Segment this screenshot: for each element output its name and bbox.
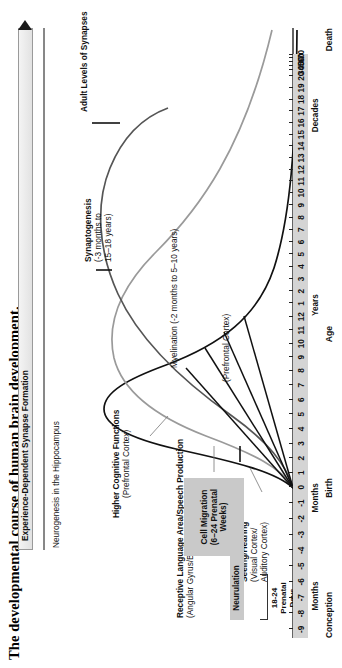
axis-tick: [289, 241, 293, 242]
milestone-death: Death: [324, 28, 334, 51]
axis-tick-label: 11: [297, 326, 306, 335]
axis-tick: [289, 486, 293, 487]
annotation-seeing-hearing: Seeing/Hearing (Visual Cortex/ Auditory …: [240, 522, 269, 582]
axis-tick-label: 5: [297, 412, 306, 417]
axis-tick-label: 15: [297, 130, 306, 139]
annotation-higher-cognitive: Higher Cognitive Functions (Prefrontal C…: [112, 410, 132, 518]
axis-tick: [289, 356, 293, 357]
axis-tick-label: 7: [297, 228, 306, 233]
annotation-myelination: Myelination (-2 months to 5–10 years): [170, 229, 180, 368]
axis-epoch-label: Years: [311, 294, 320, 316]
neurulation-label: Neurulation: [232, 565, 241, 611]
axis-tick-label: 8: [297, 368, 306, 373]
axis-tick: [289, 157, 293, 158]
axis-tick: [289, 65, 293, 66]
axis-tick-label: 19: [297, 83, 306, 92]
axis-tick-label: 1: [297, 301, 306, 306]
axis-tick: [289, 217, 293, 218]
myelination-line-4: [244, 316, 293, 488]
annotation-adult-levels: Adult Levels of Synapses: [80, 11, 90, 112]
axis-epoch-label: Months: [311, 581, 320, 610]
axis-tick: [289, 229, 293, 230]
axis-tick: [289, 302, 293, 303]
axis-tick: [289, 192, 293, 193]
curve-receptive-language: [112, 30, 293, 488]
axis-tick: [289, 502, 293, 503]
seeing-hearing-sub2: Auditory Cortex): [260, 522, 270, 582]
higher-cognitive-sub: (Prefrontal Cortex): [122, 410, 132, 518]
axis-tick-label: -1: [297, 499, 306, 506]
axis-tick: [289, 343, 293, 344]
axis-tick: [289, 253, 293, 254]
axis-tick: [289, 316, 293, 317]
axis-tick-label: -7: [297, 594, 306, 601]
axis-tick: [289, 428, 293, 429]
axis-tick-label: 10: [297, 339, 306, 348]
axis-tick-label: -3: [297, 531, 306, 538]
axis-tick-label: 0: [297, 485, 306, 490]
axis-tick: [289, 278, 293, 279]
axis-title: Age: [324, 326, 334, 342]
prenatal-days-bracket: [260, 574, 268, 620]
axis-tick: [289, 399, 293, 400]
prenatal-days-line2: Prenatal: [279, 582, 288, 614]
axis-tick: [289, 122, 293, 123]
box-cell-migration: Cell Migration (6–24 Prenatal Weeks): [184, 478, 244, 556]
myelination-line-3: [224, 332, 293, 488]
axis-tick-label: 18: [297, 95, 306, 104]
prenatal-days-line1: 18-24: [270, 588, 279, 608]
curve-seeing-hearing: [104, 30, 297, 488]
axis-tick-label: 8: [297, 215, 306, 220]
axis-tick-label: 2: [297, 289, 306, 294]
axis-tick-label: 12: [297, 165, 306, 174]
axis-tick-label: -2: [297, 515, 306, 522]
axis-tick-label: 3: [297, 441, 306, 446]
axis-tick: [289, 549, 293, 550]
axis-tick: [289, 75, 293, 76]
leader-line-seeing-hearing: [250, 468, 262, 492]
axis-tick: [289, 534, 293, 535]
axis-tick: [289, 145, 293, 146]
age-axis-ticks: [289, 54, 293, 638]
axis-tick: [289, 61, 293, 62]
right-arrow-icon: [18, 20, 32, 30]
axis-tick-label: 3: [297, 277, 306, 282]
axis-tick-label: -4: [297, 547, 306, 554]
box-neurulation: Neurulation: [230, 556, 244, 620]
axis-tick-label: 70: [297, 50, 306, 59]
axis-tick-label: 12: [297, 312, 306, 321]
axis-tick: [289, 110, 293, 111]
cell-migration-line1: Cell Migration: [199, 490, 209, 545]
experience-dependent-bar: Experience-Dependent Synapse Formation: [18, 28, 33, 550]
axis-tick-label: -8: [297, 610, 306, 617]
axis-tick: [289, 169, 293, 170]
axis-tick: [289, 99, 293, 100]
cell-migration-line3: Weeks): [218, 503, 228, 532]
milestone-birth: Birth: [324, 478, 334, 498]
myelination-line-1: [186, 368, 293, 488]
axis-epoch-label: Decades: [311, 98, 320, 132]
axis-tick: [289, 413, 293, 414]
axis-tick: [289, 384, 293, 385]
axis-tick-label: 13: [297, 153, 306, 162]
axis-tick: [289, 597, 293, 598]
rotated-figure-stage: The developmental course of human brain …: [0, 0, 342, 668]
leader-line-higher-cognitive: [150, 416, 168, 436]
annotation-synaptogenesis: Synaptogenesis (-3 months to 15–18 years…: [84, 198, 113, 262]
axis-tick: [289, 443, 293, 444]
cell-migration-label: Cell Migration (6–24 Prenatal Weeks): [200, 489, 229, 545]
axis-tick: [289, 472, 293, 473]
axis-tick: [289, 134, 293, 135]
axis-tick-label: 7: [297, 383, 306, 388]
axis-tick: [289, 204, 293, 205]
myelination-line-2: [205, 348, 293, 488]
experience-dependent-label: Experience-Dependent Synapse Formation: [20, 370, 30, 541]
axis-tick-label: 1: [297, 470, 306, 475]
axis-tick: [289, 518, 293, 519]
axis-tick: [289, 180, 293, 181]
axis-tick: [289, 54, 293, 55]
axis-tick-label: 16: [297, 118, 306, 127]
axis-tick-label: 4: [297, 427, 306, 432]
axis-tick: [289, 69, 293, 70]
figure-page: The developmental course of human brain …: [0, 0, 342, 668]
